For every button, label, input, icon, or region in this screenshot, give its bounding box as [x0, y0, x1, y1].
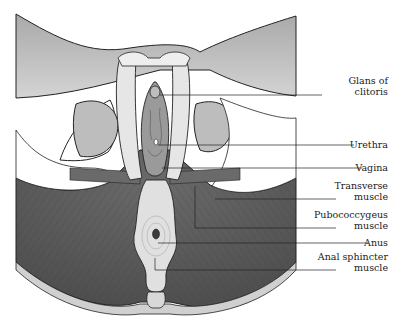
- coccyx-tip: [147, 292, 165, 308]
- label-glans-of-clitoris: Glans of clitoris: [348, 75, 388, 97]
- urethral-opening: [154, 139, 158, 145]
- label-transverse-muscle: Transverse muscle: [334, 180, 388, 202]
- anus: [153, 229, 160, 239]
- label-anal-sphincter-muscle: Anal sphincter muscle: [318, 251, 388, 273]
- perineum-illustration: [0, 0, 404, 322]
- label-pubococcygeus-muscle: Pubococcygeus muscle: [314, 209, 388, 231]
- label-vagina: Vagina: [355, 162, 388, 173]
- label-urethra: Urethra: [350, 139, 388, 150]
- labia-majora: [116, 58, 142, 180]
- label-anus: Anus: [364, 237, 388, 248]
- left-fat-pad: [73, 101, 118, 157]
- glans-clitoris: [150, 86, 160, 98]
